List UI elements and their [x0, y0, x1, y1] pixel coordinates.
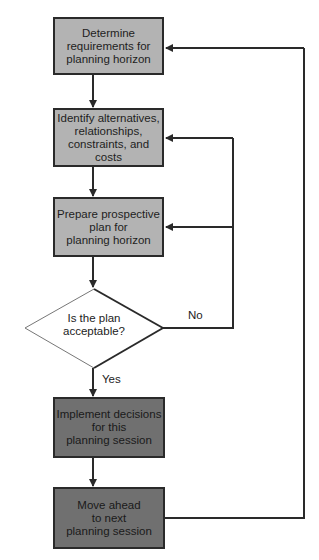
node-determine-requirements: Determine requirements for planning hori… [53, 17, 164, 75]
node-text: Identify alternatives, relationships, co… [55, 112, 162, 164]
node-implement-decisions: Implement decisions for this planning se… [53, 397, 165, 458]
no-loop-line [163, 138, 233, 328]
node-text: Determine requirements for planning hori… [66, 27, 150, 66]
node-text: Prepare prospective plan for planning ho… [57, 208, 160, 247]
yes-label: Yes [102, 373, 121, 385]
node-text: Move ahead to next planning session [66, 499, 152, 538]
no-label: No [188, 309, 203, 321]
decision-text: Is the plan acceptable? [25, 312, 163, 338]
node-text: Implement decisions for this planning se… [57, 408, 162, 447]
node-prepare-plan: Prepare prospective plan for planning ho… [53, 197, 164, 257]
node-identify-alternatives: Identify alternatives, relationships, co… [53, 108, 164, 167]
connector-layer [0, 0, 319, 560]
node-move-ahead: Move ahead to next planning session [53, 487, 165, 549]
